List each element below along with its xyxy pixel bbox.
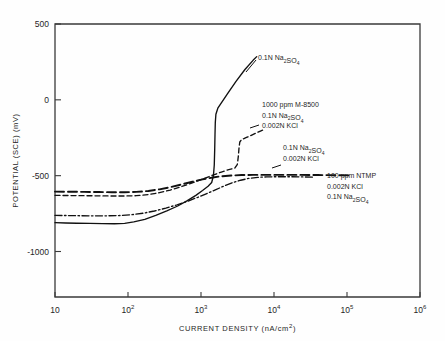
ann-ntmp-line-1: 0.002N KCl [327, 183, 363, 190]
ann-m8500-line-0: 1000 ppm M-8500 [262, 101, 319, 109]
figure-container: 101021031041051065000-500-1000CURRENT DE… [0, 0, 445, 341]
y-tick-label: 500 [35, 19, 49, 29]
ann-ntmp-line-2: 0.1N Na2SO4 [327, 193, 369, 205]
series-line-2 [55, 177, 313, 216]
ann-kcl-line-1: 0.002N KCl [283, 155, 319, 162]
x-tick-label: 104 [268, 304, 281, 315]
x-tick-label: 10 [50, 305, 60, 315]
series-line-0 [55, 57, 257, 224]
x-axis-title: CURRENT DENSITY (nA/cm2) [179, 323, 296, 333]
ann-na2so4-line-0: 0.1N Na2SO4 [258, 54, 300, 66]
x-tick-label: 102 [122, 304, 135, 315]
x-tick-label: 106 [414, 304, 427, 315]
y-axis-title: POTENTIAL (SCE) (mV) [11, 113, 20, 207]
ann-kcl-leader [272, 165, 281, 168]
polarization-chart: 101021031041051065000-500-1000CURRENT DE… [0, 0, 445, 341]
y-tick-label: -1000 [27, 247, 49, 257]
x-tick-label: 103 [195, 304, 208, 315]
ann-m8500-leader [250, 125, 259, 128]
y-tick-label: 0 [44, 95, 49, 105]
ann-ntmp-line-0: 100 ppm NTMP [327, 172, 376, 180]
y-tick-label: -500 [32, 171, 49, 181]
series-line-1 [55, 130, 264, 196]
ann-m8500-line-2: 0.002N KCl [262, 122, 298, 129]
x-tick-label: 105 [341, 304, 354, 315]
